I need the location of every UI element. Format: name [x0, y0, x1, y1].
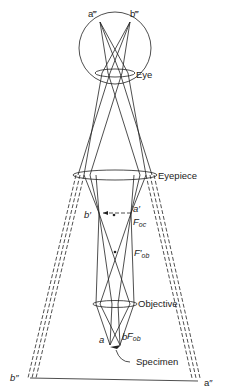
label-specimen: Specimen	[136, 356, 178, 367]
label-a-triple: a‴	[88, 8, 97, 19]
label-eye: Eye	[136, 69, 152, 80]
label-f-oc: Foc	[133, 216, 147, 228]
label-eyepiece: Eyepiece	[158, 170, 197, 181]
label-b-prime: b′	[84, 209, 92, 220]
label-a: a	[99, 334, 104, 345]
label-b-double: b″	[10, 372, 19, 383]
label-a-double: a″	[204, 377, 213, 388]
final-image	[30, 378, 198, 381]
label-b-triple: b‴	[130, 8, 139, 19]
label-a-prime: a′	[133, 203, 141, 214]
label-f-ob: Fob	[127, 330, 141, 342]
label-f-ob-prime: F′ob	[134, 247, 149, 259]
eye-lens	[95, 69, 135, 77]
microscope-ray-diagram: a‴ b‴ Eye Eyepiece b′ a′ Foc F′ob Object…	[0, 0, 229, 390]
objective-lens	[93, 301, 137, 308]
label-objective: Objective	[138, 298, 178, 309]
